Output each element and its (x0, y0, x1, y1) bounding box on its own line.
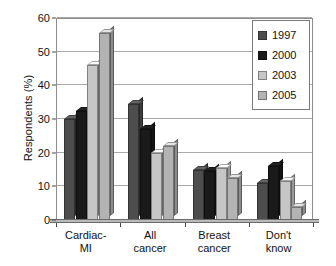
bar-1997-group-0 (64, 119, 75, 220)
bar-face (291, 207, 302, 220)
legend-item-2000[interactable]: 2000 (258, 45, 305, 65)
bar-face (140, 129, 151, 220)
bar-face (227, 178, 238, 220)
legend-swatch-2005 (258, 91, 267, 100)
bar-face (257, 183, 268, 220)
bar-2003-group-0 (87, 65, 98, 220)
legend: 1997200020032005 (252, 20, 310, 110)
y-tick-mark-30 (52, 119, 56, 120)
bar-1997-group-2 (193, 170, 204, 221)
legend-label-2005: 2005 (272, 90, 296, 101)
y-tick-label-20: 20 (30, 147, 50, 158)
legend-item-2003[interactable]: 2003 (258, 65, 305, 85)
legend-item-1997[interactable]: 1997 (258, 25, 305, 45)
legend-label-2003: 2003 (272, 70, 296, 81)
bar-side (174, 139, 178, 216)
bar-2003-group-1 (151, 153, 162, 220)
y-tick-mark-60 (52, 18, 56, 19)
x-axis-label-1: Allcancer (133, 229, 166, 255)
bar-2000-group-2 (204, 171, 215, 220)
bar-side (110, 26, 114, 216)
x-label-line: cancer (133, 242, 166, 255)
x-label-line: MI (65, 242, 107, 255)
bar-face (204, 171, 215, 220)
y-tick-label-40: 40 (30, 80, 50, 91)
legend-label-1997: 1997 (272, 30, 296, 41)
bar-1997-group-1 (128, 104, 139, 220)
y-tick-mark-50 (52, 51, 56, 52)
bar-2000-group-0 (76, 111, 87, 220)
y-tick-label-0: 0 (30, 215, 50, 226)
bar-2003-group-2 (216, 168, 227, 220)
x-axis-label-0: Cardiac-MI (65, 229, 107, 255)
bar-face (163, 146, 174, 220)
bar-face (151, 153, 162, 220)
bar-face (193, 170, 204, 221)
bar-chart-figure: Respondents (%) 0102030405060 Cardiac-MI… (0, 0, 336, 266)
x-label-line: know (266, 242, 292, 255)
bar-face (87, 65, 98, 220)
x-tick-mark-3 (249, 223, 250, 227)
legend-swatch-2000 (258, 51, 267, 60)
bar-2000-group-3 (268, 166, 279, 220)
bar-face (280, 181, 291, 220)
y-tick-label-60: 60 (30, 13, 50, 24)
x-label-line: Don't (266, 229, 292, 242)
x-label-line: Breast (198, 229, 231, 242)
x-label-line: cancer (198, 242, 231, 255)
x-tick-mark-1 (120, 223, 121, 227)
y-tick-mark-10 (52, 186, 56, 187)
y-tick-label-30: 30 (30, 114, 50, 125)
gridline-60 (57, 17, 312, 18)
y-tick-mark-0 (52, 220, 56, 221)
x-label-line: All (133, 229, 166, 242)
y-tick-label-10: 10 (30, 181, 50, 192)
bar-2000-group-1 (140, 129, 151, 220)
bar-2005-group-2 (227, 178, 238, 220)
bar-side (238, 171, 242, 216)
x-tick-mark-2 (185, 223, 186, 227)
x-tick-mark-4 (313, 223, 314, 227)
legend-swatch-1997 (258, 31, 267, 40)
y-tick-mark-20 (52, 152, 56, 153)
bar-face (216, 168, 227, 220)
x-label-line: Cardiac- (65, 229, 107, 242)
bar-side (302, 199, 306, 216)
bar-face (64, 119, 75, 220)
legend-label-2000: 2000 (272, 50, 296, 61)
bar-face (128, 104, 139, 220)
bar-2005-group-0 (99, 33, 110, 220)
x-axis-label-3: Don'tknow (266, 229, 292, 255)
y-tick-label-50: 50 (30, 46, 50, 57)
y-tick-mark-40 (52, 85, 56, 86)
bar-1997-group-3 (257, 183, 268, 220)
x-tick-mark-0 (56, 223, 57, 227)
x-axis-label-2: Breastcancer (198, 229, 231, 255)
bar-face (76, 111, 87, 220)
bar-2005-group-3 (291, 207, 302, 220)
legend-swatch-2003 (258, 71, 267, 80)
bar-face (99, 33, 110, 220)
legend-item-2005[interactable]: 2005 (258, 85, 305, 105)
bar-face (268, 166, 279, 220)
bar-2005-group-1 (163, 146, 174, 220)
bar-2003-group-3 (280, 181, 291, 220)
